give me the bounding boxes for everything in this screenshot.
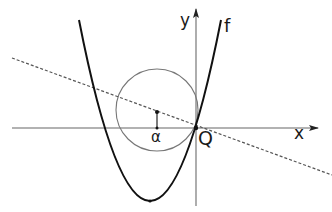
dashed-tangent-line xyxy=(12,58,332,175)
alpha-label: α xyxy=(151,128,161,146)
vertex-dot xyxy=(148,199,151,202)
y-axis-label: y xyxy=(180,10,190,30)
parabola-f xyxy=(79,20,221,201)
origin-label: Q xyxy=(198,127,213,149)
parabola-circle-diagram: y f x Q α xyxy=(0,0,332,212)
function-label: f xyxy=(224,15,231,36)
circle-center-dot xyxy=(155,110,159,114)
x-axis-label: x xyxy=(294,123,304,143)
